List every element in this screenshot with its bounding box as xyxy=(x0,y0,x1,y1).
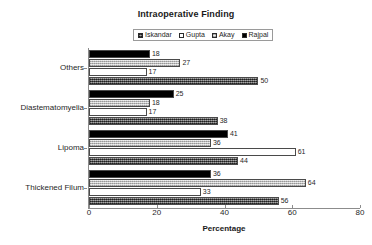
legend-label-akay: Akay xyxy=(219,31,235,39)
bar-group: 41366144 xyxy=(89,130,360,166)
plot-area: 18271750251817384136614436643356 xyxy=(88,48,360,208)
bar-value-label: 33 xyxy=(203,187,211,196)
bar-row: 17 xyxy=(89,108,360,116)
bar-row: 17 xyxy=(89,68,360,76)
bar-row: 41 xyxy=(89,130,360,138)
bar-group: 36643356 xyxy=(89,170,360,206)
bar-group: 18271750 xyxy=(89,50,360,86)
legend-label-gupta: Gupta xyxy=(186,31,205,39)
bar-row: 64 xyxy=(89,179,360,187)
chart-legend: Iskandar Gupta Akay Rajpal xyxy=(133,29,273,41)
legend-swatch-gupta xyxy=(179,33,184,38)
legend-swatch-akay xyxy=(212,33,217,38)
y-axis-label-thickened-filum: Thickened Filum xyxy=(25,183,84,192)
x-axis-tick-label: 60 xyxy=(288,208,297,217)
legend-label-iskandar: Iskandar xyxy=(145,31,172,39)
bar-row: 44 xyxy=(89,157,360,165)
legend-label-rajpal: Rajpal xyxy=(249,31,269,39)
chart-container: Intraoperative Finding Iskandar Gupta Ak… xyxy=(0,0,372,245)
bar-value-label: 64 xyxy=(308,178,316,187)
bar-gupta-others[interactable] xyxy=(89,68,147,76)
legend-entry-rajpal[interactable]: Rajpal xyxy=(242,31,269,39)
bar-gupta-lipoma[interactable] xyxy=(89,148,296,156)
bar-value-label: 36 xyxy=(213,169,221,178)
bar-value-label: 25 xyxy=(176,89,184,98)
x-axis-ticks: 020406080 xyxy=(88,208,360,222)
x-axis-tick-label: 80 xyxy=(356,208,365,217)
bar-rajpal-diastematomyelia[interactable] xyxy=(89,90,174,98)
bar-akay-lipoma[interactable] xyxy=(89,139,211,147)
bar-row: 36 xyxy=(89,139,360,147)
legend-entry-iskandar[interactable]: Iskandar xyxy=(138,31,172,39)
bar-akay-thickened-filum[interactable] xyxy=(89,179,306,187)
x-axis-tick-label: 40 xyxy=(220,208,229,217)
bar-value-label: 18 xyxy=(152,49,160,58)
bar-row: 56 xyxy=(89,197,360,205)
bar-row: 36 xyxy=(89,170,360,178)
legend-entry-gupta[interactable]: Gupta xyxy=(179,31,205,39)
bar-value-label: 17 xyxy=(149,107,157,116)
bar-value-label: 17 xyxy=(149,67,157,76)
legend-swatch-iskandar xyxy=(138,33,143,38)
bar-row: 50 xyxy=(89,77,360,85)
chart-title: Intraoperative Finding xyxy=(0,9,372,19)
bar-value-label: 38 xyxy=(220,116,228,125)
y-axis-tick xyxy=(84,68,87,69)
bar-row: 18 xyxy=(89,99,360,107)
bar-value-label: 36 xyxy=(213,138,221,147)
bar-gupta-diastematomyelia[interactable] xyxy=(89,108,147,116)
bar-value-label: 56 xyxy=(281,196,289,205)
bar-group: 25181738 xyxy=(89,90,360,126)
bar-row: 38 xyxy=(89,117,360,125)
bar-row: 33 xyxy=(89,188,360,196)
bar-rajpal-others[interactable] xyxy=(89,50,150,58)
bar-value-label: 18 xyxy=(152,98,160,107)
x-axis-tick-label: 0 xyxy=(87,208,91,217)
legend-swatch-rajpal xyxy=(242,33,247,38)
bar-akay-others[interactable] xyxy=(89,59,180,67)
x-axis-tick-label: 20 xyxy=(152,208,161,217)
bar-akay-diastematomyelia[interactable] xyxy=(89,99,150,107)
bar-iskandar-diastematomyelia[interactable] xyxy=(89,117,218,125)
bar-iskandar-others[interactable] xyxy=(89,77,258,85)
bar-value-label: 27 xyxy=(182,58,190,67)
bar-value-label: 44 xyxy=(240,156,248,165)
y-axis-label-others: Others xyxy=(60,63,84,72)
bar-value-label: 61 xyxy=(298,147,306,156)
y-axis-category-labels: OthersDiastematomyeliaLipomaThickened Fi… xyxy=(0,48,84,208)
bar-rajpal-thickened-filum[interactable] xyxy=(89,170,211,178)
y-axis-label-diastematomyelia: Diastematomyelia xyxy=(20,103,84,112)
bar-value-label: 50 xyxy=(260,76,268,85)
y-axis-tick xyxy=(84,148,87,149)
x-axis-label: Percentage xyxy=(88,224,360,233)
bar-row: 27 xyxy=(89,59,360,67)
y-axis-tick xyxy=(84,188,87,189)
bar-row: 61 xyxy=(89,148,360,156)
bar-iskandar-thickened-filum[interactable] xyxy=(89,197,279,205)
bar-iskandar-lipoma[interactable] xyxy=(89,157,238,165)
bar-rajpal-lipoma[interactable] xyxy=(89,130,228,138)
bar-row: 25 xyxy=(89,90,360,98)
bar-value-label: 41 xyxy=(230,129,238,138)
y-axis-label-lipoma: Lipoma xyxy=(58,143,84,152)
bar-row: 18 xyxy=(89,50,360,58)
bar-gupta-thickened-filum[interactable] xyxy=(89,188,201,196)
y-axis-tick xyxy=(84,108,87,109)
legend-entry-akay[interactable]: Akay xyxy=(212,31,235,39)
